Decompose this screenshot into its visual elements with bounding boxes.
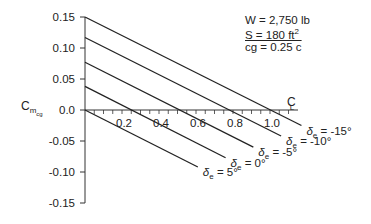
y-tick-label: 0.15 [53, 11, 75, 23]
x-tick-label: 0.8 [227, 117, 243, 129]
y-tick-label: -0.05 [49, 135, 75, 147]
x-tick-label: 1.0 [264, 117, 280, 129]
elevator-line-label: δe = 5° [203, 166, 238, 181]
y-tick-label: 0.0 [59, 104, 75, 116]
y-ticks: 0.150.100.050.0-0.05-0.10-0.15 [49, 11, 85, 209]
pitching-moment-chart: 0.150.100.050.0-0.05-0.10-0.15 0.20.40.6… [0, 0, 371, 224]
x-tick-label: 0.4 [153, 117, 170, 129]
area-text: S = 180 ft2 [245, 26, 310, 41]
cg-text: cg = 0.25 c [245, 41, 310, 53]
y-tick-label: -0.10 [49, 166, 75, 178]
y-tick-label: 0.05 [53, 73, 75, 85]
elevator-line [85, 62, 253, 147]
y-tick-label: 0.10 [53, 42, 75, 54]
y-tick-label: -0.15 [49, 197, 75, 209]
elevator-line [85, 110, 198, 167]
x-axis-label: CL [287, 95, 296, 112]
x-ticks: 0.20.40.60.81.0 [94, 110, 288, 129]
weight-text: W = 2,750 lb [245, 14, 310, 26]
aircraft-info: W = 2,750 lb S = 180 ft2 cg = 0.25 c [245, 14, 310, 53]
y-axis-label: Cmcg [21, 99, 43, 117]
